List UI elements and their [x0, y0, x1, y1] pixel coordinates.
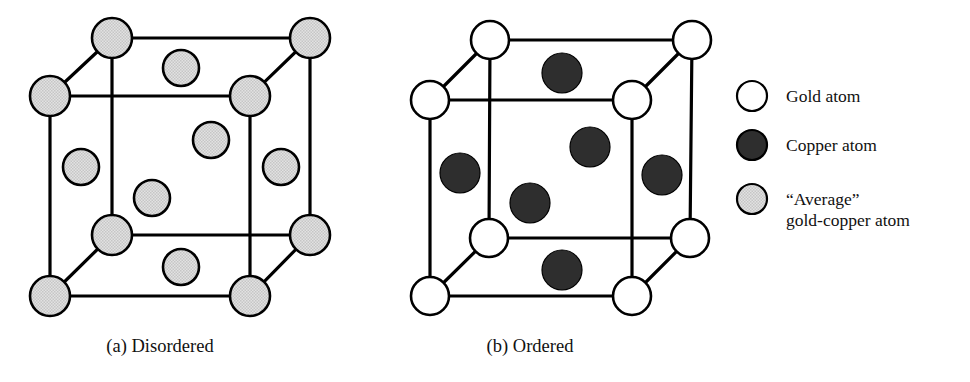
corner-atom-back-top-right	[290, 18, 330, 58]
corner-atom-back-bottom-right	[671, 219, 709, 257]
legend-label-gold: Gold atom	[786, 86, 861, 106]
corner-atom-back-bottom-left	[92, 215, 132, 255]
legend-label-average: gold-copper atom	[786, 210, 910, 230]
corner-atom-front-top-right	[230, 76, 270, 116]
corner-atom-back-bottom-left	[470, 219, 508, 257]
edge-back-right	[690, 40, 692, 238]
legend-swatch-average	[737, 184, 767, 214]
corner-atom-back-top-right	[673, 21, 711, 59]
face-atom-bottom-face	[163, 249, 199, 285]
face-atom-right-face	[642, 155, 682, 195]
panel-caption: (a) Disordered	[106, 336, 214, 357]
corner-atom-back-top-left	[92, 18, 132, 58]
face-atom-left-face	[440, 153, 480, 193]
face-atom-bottom-face	[542, 250, 582, 290]
corner-atom-front-top-left	[411, 81, 449, 119]
legend-swatch-gold	[737, 81, 767, 111]
face-atom-top-face	[163, 50, 199, 86]
face-atom-back-face	[193, 122, 229, 158]
legend-swatch-copper	[737, 130, 767, 160]
legend-label-average: “Average”	[786, 189, 860, 209]
face-atom-front-face	[510, 183, 550, 223]
corner-atom-front-top-left	[30, 76, 70, 116]
corner-atom-back-bottom-right	[290, 215, 330, 255]
corner-atom-front-bottom-left	[411, 277, 449, 315]
corner-atom-back-top-left	[471, 21, 509, 59]
face-atom-front-face	[134, 180, 170, 216]
face-atom-top-face	[542, 53, 582, 93]
edge-back-left	[489, 40, 490, 238]
face-atom-back-face	[570, 127, 610, 167]
crystal-structure-figure: (a) Disordered (b) Ordered Gold atomCopp…	[0, 0, 970, 382]
face-atom-right-face	[263, 149, 299, 185]
legend-label-copper: Copper atom	[786, 135, 877, 155]
corner-atom-front-bottom-right	[613, 277, 651, 315]
panel-caption: (b) Ordered	[487, 336, 575, 357]
face-atom-left-face	[63, 149, 99, 185]
corner-atom-front-top-right	[613, 81, 651, 119]
corner-atom-front-bottom-left	[30, 276, 70, 316]
corner-atom-front-bottom-right	[230, 276, 270, 316]
